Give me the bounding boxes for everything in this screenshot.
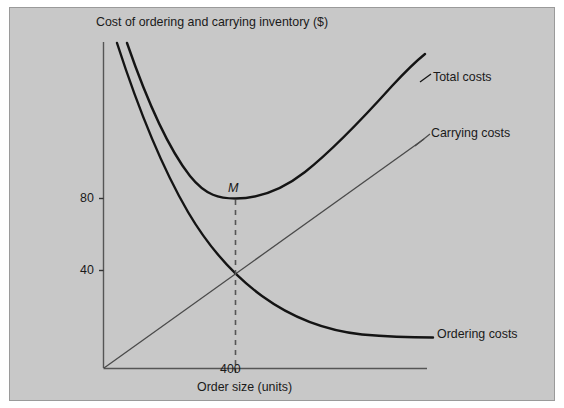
leader-carrying-costs [415, 134, 430, 146]
y-axis-tick-label-80: 80 [80, 192, 94, 204]
series-label-ordering-costs: Ordering costs [437, 328, 518, 340]
y-axis-tick-label-40: 40 [80, 264, 94, 276]
series-label-carrying-costs: Carrying costs [431, 127, 510, 139]
x-axis-tick-label-400: 400 [220, 363, 241, 375]
series-label-total-costs: Total costs [433, 71, 492, 83]
chart-title: Cost of ordering and carrying inventory … [96, 16, 328, 28]
x-axis-title: Order size (units) [197, 381, 292, 393]
series-line-carrying-costs [104, 139, 424, 368]
figure-canvas: Cost of ordering and carrying inventory … [0, 0, 564, 408]
leader-total-costs [420, 74, 431, 82]
series-curve-total-costs [127, 43, 425, 199]
minimum-point-label: M [228, 182, 239, 195]
